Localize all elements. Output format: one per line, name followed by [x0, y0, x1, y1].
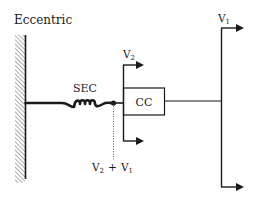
- fixed-wall: [15, 35, 26, 183]
- v1-label: V1: [217, 12, 230, 26]
- series-elastic-component: SEC: [26, 82, 114, 107]
- v1-velocity: V1: [217, 12, 242, 187]
- v2-label: V2: [122, 48, 135, 62]
- cc-label: CC: [136, 96, 153, 109]
- diagram-title: Eccentric: [14, 13, 72, 27]
- muscle-model-diagram: Eccentric SEC CC V2 V1 V2+V1: [0, 0, 259, 203]
- velocity-sum-label: V2+V1: [91, 161, 133, 175]
- wall-hatching: [15, 35, 25, 183]
- sec-label: SEC: [73, 82, 97, 95]
- spring-line: [26, 100, 114, 107]
- contractile-component: CC: [124, 88, 165, 115]
